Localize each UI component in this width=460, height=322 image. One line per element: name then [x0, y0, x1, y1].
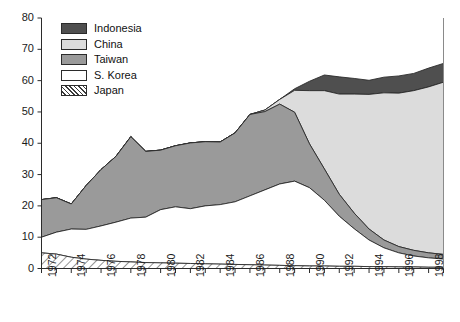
y-tick-label: 30 [8, 168, 34, 180]
legend-label: S. Korea [94, 70, 137, 81]
x-tick-label: 1996 [403, 254, 415, 277]
y-tick-label: 70 [8, 42, 34, 54]
y-tick-label: 60 [8, 74, 34, 86]
x-tick-label: 1984 [224, 254, 236, 277]
x-tick-label: 1998 [433, 254, 445, 277]
x-tick-label: 1972 [46, 254, 58, 277]
legend-item-indonesia: Indonesia [61, 21, 142, 37]
y-tick-label: 10 [8, 230, 34, 242]
x-tick-label: 1974 [75, 254, 87, 277]
x-tick-label: 1988 [284, 254, 296, 277]
y-tick-label: 40 [8, 136, 34, 148]
x-tick-label: 1976 [105, 254, 117, 277]
legend-item-china: China [61, 37, 142, 53]
legend-swatch [61, 70, 87, 81]
legend-label: Japan [94, 85, 124, 96]
figure-caption [14, 311, 444, 322]
figure-container: 01020304050607080 1972197419761978198019… [0, 0, 460, 322]
x-tick-label: 1980 [165, 254, 177, 277]
legend-swatch [61, 85, 87, 96]
legend-swatch [61, 23, 87, 34]
legend-item-taiwan: Taiwan [61, 52, 142, 68]
x-tick-label: 1992 [343, 254, 355, 277]
x-tick-label: 1994 [373, 254, 385, 277]
x-tick-label: 1982 [194, 254, 206, 277]
legend-item-japan: Japan [61, 83, 142, 99]
y-tick-label: 80 [8, 11, 34, 23]
x-tick-label: 1986 [254, 254, 266, 277]
y-tick-group [38, 18, 42, 269]
legend-item-s-korea: S. Korea [61, 68, 142, 84]
y-tick-label: 50 [8, 105, 34, 117]
y-tick-label: 20 [8, 199, 34, 211]
legend-label: China [94, 39, 123, 50]
legend-swatch [61, 39, 87, 50]
x-tick-label: 1990 [314, 254, 326, 277]
x-tick-label: 1978 [135, 254, 147, 277]
legend-label: Taiwan [94, 54, 128, 65]
legend-swatch [61, 54, 87, 65]
y-tick-label: 0 [8, 262, 34, 274]
chart-legend: IndonesiaChinaTaiwanS. KoreaJapan [61, 21, 142, 99]
legend-label: Indonesia [94, 23, 142, 34]
